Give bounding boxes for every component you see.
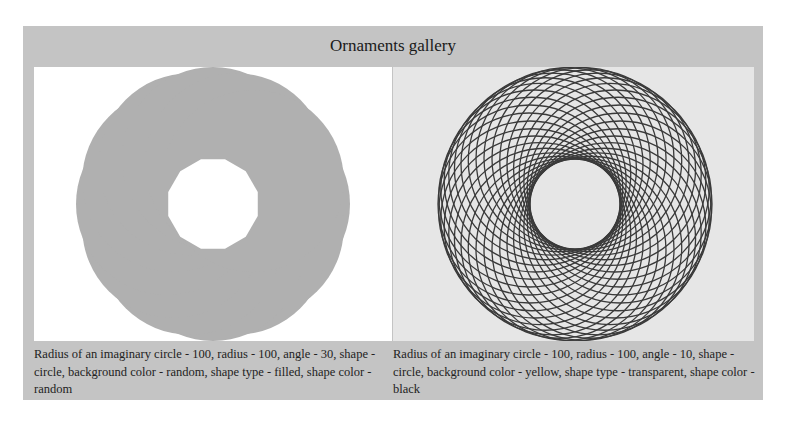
ornament-caption-transparent: Radius of an imaginary circle - 100, rad… <box>393 346 755 399</box>
ornament-center-hole <box>168 159 258 249</box>
ornament-panel-filled <box>34 67 392 341</box>
ornament-panel-transparent <box>393 67 754 341</box>
gallery-title: Ornaments gallery <box>23 26 763 67</box>
ornaments-gallery: Ornaments gallery Radius of an imaginary… <box>23 26 763 400</box>
ornament-shapes <box>438 67 712 341</box>
ornament-transparent-image <box>393 67 754 341</box>
ornament-filled-image <box>34 67 392 341</box>
ornament-caption-filled: Radius of an imaginary circle - 100, rad… <box>34 346 392 399</box>
